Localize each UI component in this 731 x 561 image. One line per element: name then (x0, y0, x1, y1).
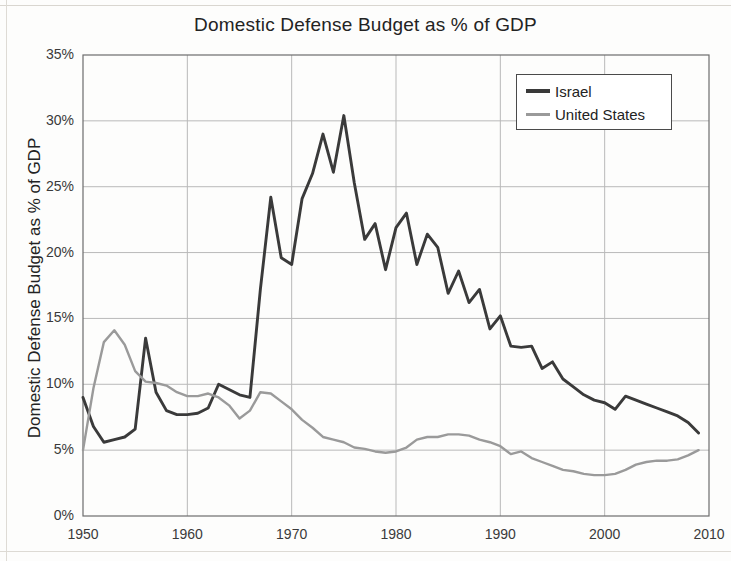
x-tick-label: 1960 (157, 526, 217, 542)
x-tick-label: 1980 (366, 526, 426, 542)
x-tick-label: 1990 (470, 526, 530, 542)
series-line-israel (83, 116, 699, 443)
chart-legend: Israel United States (516, 74, 672, 130)
y-tick-label: 10% (28, 375, 74, 391)
legend-entry-israel: Israel (526, 81, 592, 101)
legend-entry-united-states: United States (526, 104, 645, 124)
legend-swatch-israel (526, 89, 550, 93)
x-tick-label: 1970 (262, 526, 322, 542)
x-tick-label: 2000 (575, 526, 635, 542)
legend-label-israel: Israel (555, 83, 592, 100)
chart-container: Domestic Defense Budget as % of GDP Dome… (0, 0, 731, 561)
y-tick-label: 35% (28, 46, 74, 62)
y-tick-label: 5% (28, 441, 74, 457)
y-tick-label: 15% (28, 309, 74, 325)
legend-label-united-states: United States (555, 106, 645, 123)
y-tick-label: 0% (28, 507, 74, 523)
data-series-layer (83, 116, 699, 476)
y-tick-label: 20% (28, 244, 74, 260)
y-tick-label: 25% (28, 178, 74, 194)
x-tick-label: 2010 (679, 526, 731, 542)
legend-swatch-united-states (526, 113, 550, 116)
y-tick-label: 30% (28, 112, 74, 128)
x-tick-label: 1950 (53, 526, 113, 542)
